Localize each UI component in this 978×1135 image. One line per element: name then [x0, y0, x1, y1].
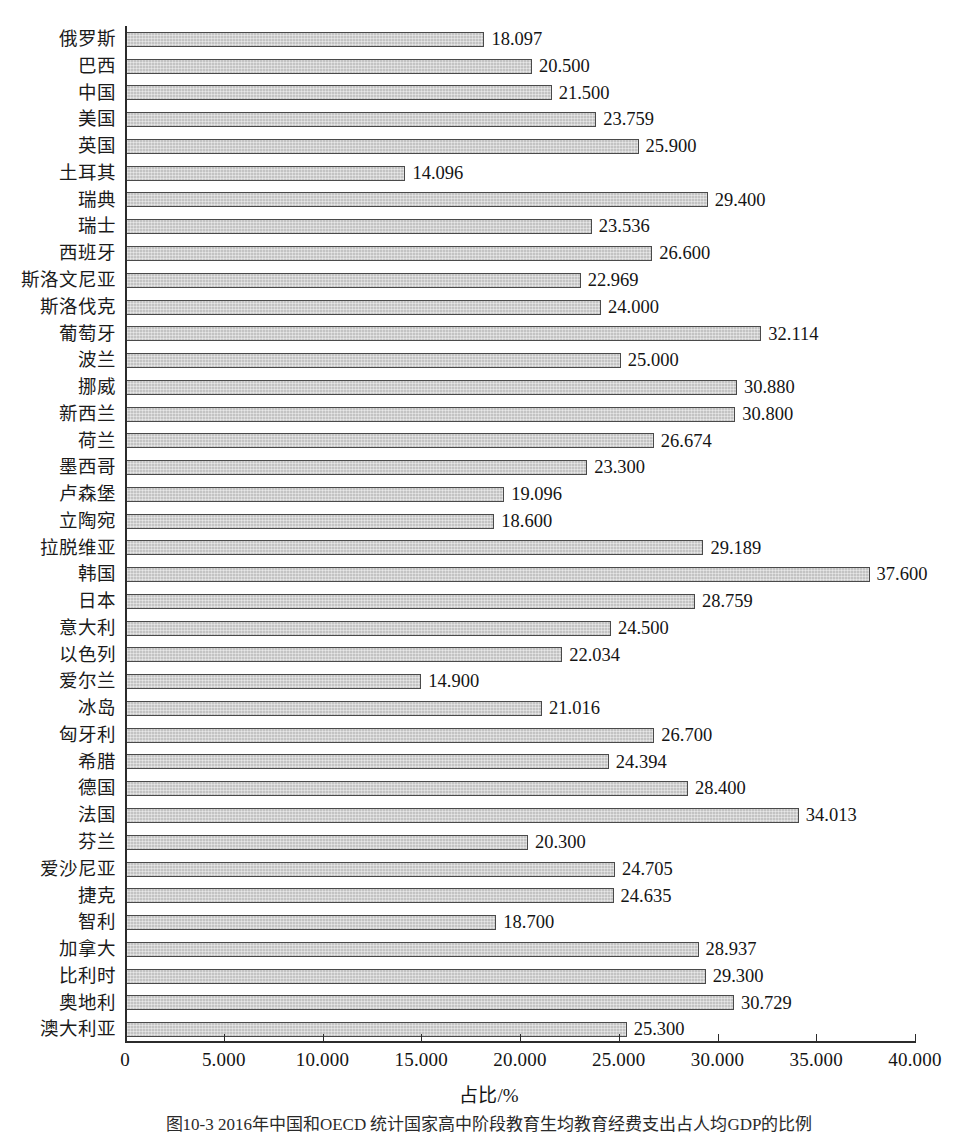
bar-value-label: 25.300 [634, 1020, 685, 1039]
bar-value-label: 32.114 [768, 325, 818, 344]
bar [127, 942, 699, 957]
category-label: 瑞典 [78, 191, 116, 210]
category-label: 爱沙尼亚 [40, 860, 116, 879]
category-label: 新西兰 [59, 405, 116, 424]
bar-value-label: 24.000 [608, 298, 659, 317]
figure-caption: 图10-3 2016年中国和OECD 统计国家高中阶段教育生均教育经费支出占人均… [0, 1110, 978, 1135]
bar-value-label: 30.880 [744, 378, 795, 397]
category-label: 加拿大 [59, 940, 116, 959]
bar [127, 862, 615, 877]
bar-value-label: 28.759 [702, 592, 753, 611]
x-axis-tick [125, 1034, 126, 1043]
bar-row: 智利18.700 [125, 909, 915, 936]
bar-row: 巴西20.500 [125, 53, 915, 80]
bar [127, 995, 734, 1010]
category-label: 希腊 [78, 753, 116, 772]
bar-value-label: 20.300 [535, 833, 586, 852]
bar-value-label: 23.300 [594, 458, 645, 477]
bar-row: 土耳其14.096 [125, 160, 915, 187]
x-axis-tick-label: 10.000 [296, 1049, 349, 1071]
bar [127, 888, 614, 903]
bar [127, 969, 706, 984]
category-label: 葡萄牙 [59, 325, 116, 344]
category-label: 立陶宛 [59, 512, 116, 531]
bar [127, 85, 552, 100]
bar-value-label: 24.394 [616, 753, 667, 772]
bar [127, 166, 405, 181]
bar-row: 瑞士23.536 [125, 213, 915, 240]
x-axis-tick-label: 35.000 [790, 1049, 843, 1071]
bar [127, 139, 639, 154]
category-label: 西班牙 [59, 244, 116, 263]
bar-value-label: 23.759 [603, 110, 654, 129]
category-label: 波兰 [78, 351, 116, 370]
bar-value-label: 25.900 [646, 137, 697, 156]
bar-value-label: 26.674 [661, 432, 712, 451]
category-label: 日本 [78, 592, 116, 611]
bar-value-label: 19.096 [511, 485, 562, 504]
bar-row: 爱尔兰14.900 [125, 668, 915, 695]
category-label: 巴西 [78, 57, 116, 76]
bar-row: 立陶宛18.600 [125, 508, 915, 535]
bar-value-label: 23.536 [599, 217, 650, 236]
bar-row: 匈牙利26.700 [125, 722, 915, 749]
x-axis-tick-label: 30.000 [691, 1049, 744, 1071]
category-label: 拉脱维亚 [40, 539, 116, 558]
bar-value-label: 37.600 [877, 565, 928, 584]
x-axis-tick [323, 1034, 324, 1043]
category-label: 芬兰 [78, 833, 116, 852]
bar [127, 112, 596, 127]
bar-row: 斯洛文尼亚22.969 [125, 267, 915, 294]
x-axis-tick-label: 20.000 [493, 1049, 546, 1071]
bar [127, 701, 542, 716]
bar [127, 647, 562, 662]
bar [127, 540, 703, 555]
category-label: 美国 [78, 110, 116, 129]
bar-value-label: 25.000 [628, 351, 679, 370]
bar [127, 326, 761, 341]
category-label: 捷克 [78, 887, 116, 906]
bar-value-label: 26.700 [661, 726, 712, 745]
bar [127, 567, 870, 582]
bar [127, 460, 587, 475]
bar-value-label: 24.635 [621, 887, 672, 906]
bar-row: 日本28.759 [125, 588, 915, 615]
bar-row: 以色列22.034 [125, 642, 915, 669]
bar-row: 荷兰26.674 [125, 427, 915, 454]
category-label: 奥地利 [59, 994, 116, 1013]
x-axis-tick-label: 0 [120, 1049, 130, 1071]
bar-value-label: 22.969 [588, 271, 639, 290]
x-axis-tick-label: 25.000 [592, 1049, 645, 1071]
bar-row: 比利时29.300 [125, 963, 915, 990]
bar-row: 波兰25.000 [125, 347, 915, 374]
category-label: 韩国 [78, 565, 116, 584]
bar-value-label: 29.300 [713, 967, 764, 986]
bar-value-label: 34.013 [806, 806, 857, 825]
x-axis-tick [816, 1034, 817, 1043]
x-axis-tick-label: 5.000 [202, 1049, 246, 1071]
bar [127, 246, 652, 261]
bar-row: 韩国37.600 [125, 561, 915, 588]
category-label: 英国 [78, 137, 116, 156]
bar-row: 爱沙尼亚24.705 [125, 856, 915, 883]
bar-row: 加拿大28.937 [125, 936, 915, 963]
bar [127, 192, 708, 207]
bar-row: 英国25.900 [125, 133, 915, 160]
bar [127, 621, 611, 636]
bar-row: 奥地利30.729 [125, 989, 915, 1016]
bar-row: 德国28.400 [125, 775, 915, 802]
bar-row: 挪威30.880 [125, 374, 915, 401]
bar-row: 新西兰30.800 [125, 401, 915, 428]
bar [127, 380, 737, 395]
bar-value-label: 18.600 [501, 512, 552, 531]
bar [127, 754, 609, 769]
bar-row: 捷克24.635 [125, 882, 915, 909]
bar-value-label: 29.400 [715, 191, 766, 210]
category-label: 土耳其 [59, 164, 116, 183]
bar [127, 514, 494, 529]
bar [127, 835, 528, 850]
bar [127, 433, 654, 448]
bar-value-label: 28.937 [706, 940, 757, 959]
bar-value-label: 22.034 [569, 646, 620, 665]
